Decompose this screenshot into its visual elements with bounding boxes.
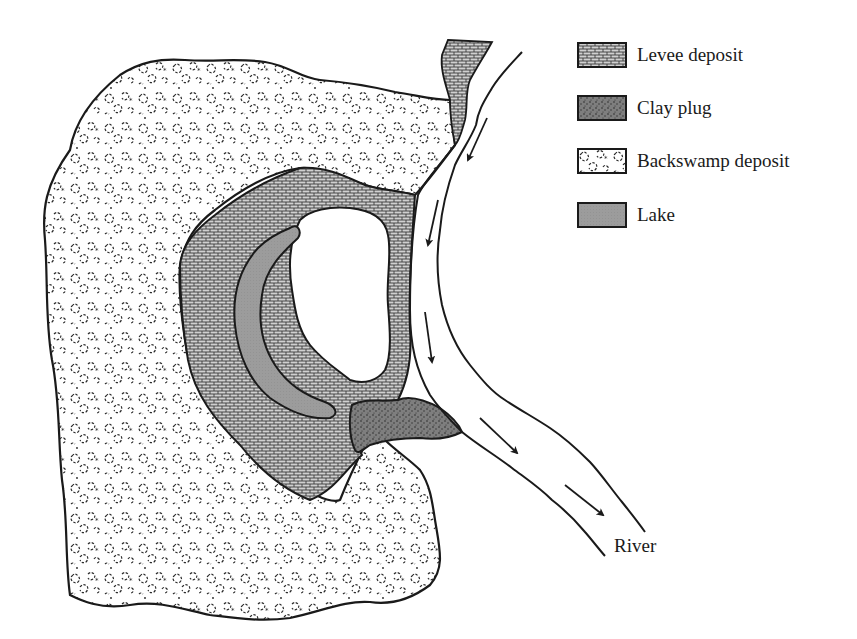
- legend-item-levee: Levee deposit: [577, 40, 743, 70]
- oxbow-diagram: *: [0, 0, 857, 639]
- flow-arrow: [565, 485, 603, 515]
- legend-item-backswamp: Backswamp deposit: [577, 146, 790, 176]
- flow-arrow: [428, 200, 438, 245]
- backswamp-swatch-icon: [577, 148, 627, 174]
- legend-item-clay: Clay plug: [577, 93, 711, 123]
- legend-item-lake: Lake: [577, 200, 675, 230]
- legend-label: Levee deposit: [637, 44, 743, 66]
- river-label: River: [614, 535, 656, 557]
- river-right-bank: [438, 52, 645, 532]
- legend-label: Lake: [637, 204, 675, 226]
- flow-arrow: [468, 118, 487, 160]
- clay-swatch-icon: [577, 95, 627, 121]
- legend-label: Backswamp deposit: [637, 150, 790, 172]
- lake-swatch-icon: [577, 202, 627, 228]
- clay-plug: [350, 398, 462, 452]
- levee-swatch-icon: [577, 42, 627, 68]
- legend-label: Clay plug: [637, 97, 711, 119]
- flow-arrow: [425, 312, 432, 362]
- flow-arrow: [480, 418, 517, 453]
